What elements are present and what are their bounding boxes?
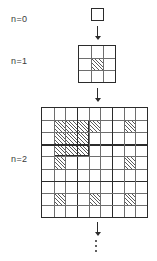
- grid-line-horizontal: [42, 156, 147, 157]
- grid-line-vertical-major: [77, 108, 78, 217]
- grid-line-vertical: [124, 108, 125, 217]
- grid-line-vertical: [135, 108, 136, 217]
- arrow-head-icon: [95, 98, 101, 102]
- grid-line-horizontal-major: [42, 181, 147, 182]
- stage2-grid: [41, 107, 148, 218]
- grid-line-vertical: [103, 46, 104, 82]
- hatched-cell: [54, 193, 66, 205]
- grid-line-vertical: [54, 108, 55, 217]
- stage0-unit-square: [91, 8, 104, 21]
- grid-line-horizontal-major: [42, 144, 147, 145]
- arrow-head-icon: [95, 36, 101, 40]
- ellipsis-dot: [95, 245, 97, 247]
- arrow-down-stage2-to-continuation: [93, 222, 102, 237]
- grid-line-horizontal: [42, 205, 147, 206]
- hatched-cell: [124, 120, 136, 132]
- stage-label-n2: n=2: [11, 155, 27, 164]
- grid-line-vertical-major: [112, 108, 113, 217]
- grid-line-vertical: [91, 46, 92, 82]
- hatched-cell: [89, 193, 101, 205]
- grid-line-vertical: [65, 108, 66, 217]
- ellipsis-dot: [95, 250, 97, 252]
- stage1-grid-inner: [79, 46, 115, 82]
- grid-line-vertical: [100, 108, 101, 217]
- grid-line-vertical: [89, 108, 90, 217]
- ellipsis-dot: [95, 240, 97, 242]
- stage2-grid-inner: [42, 108, 147, 217]
- figure-canvas: n=0 n=1 n=2: [0, 0, 157, 261]
- stage-label-n1: n=1: [11, 57, 27, 66]
- hatched-cell: [124, 156, 136, 168]
- stage1-grid: [78, 45, 116, 83]
- hatched-cell: [91, 58, 103, 70]
- arrow-head-icon: [95, 232, 101, 236]
- hatched-center-block: [54, 120, 89, 156]
- grid-line-horizontal: [42, 169, 147, 170]
- arrow-down-stage1-to-stage2: [93, 88, 102, 103]
- grid-line-horizontal: [42, 132, 147, 133]
- stage-label-n0: n=0: [11, 15, 27, 24]
- arrow-down-stage0-to-stage1: [93, 26, 102, 41]
- hatched-cell: [89, 120, 101, 132]
- grid-line-horizontal: [42, 120, 147, 121]
- hatched-cell: [124, 193, 136, 205]
- grid-line-horizontal: [42, 193, 147, 194]
- grid-line-horizontal: [79, 70, 115, 71]
- hatched-cell: [54, 156, 66, 168]
- grid-line-horizontal: [79, 58, 115, 59]
